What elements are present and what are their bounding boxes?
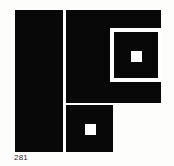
- left-tall-rectangle: [15, 10, 63, 152]
- top-right-center-dot: [131, 51, 142, 62]
- figure-plate: 281: [0, 0, 174, 166]
- figure-caption: 281: [14, 153, 28, 163]
- bottom-center-dot: [85, 124, 96, 135]
